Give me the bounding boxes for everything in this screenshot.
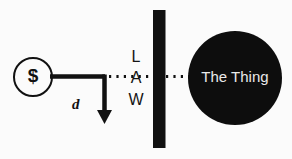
distance-arrow-head [97, 110, 112, 124]
law-letter-a: A [124, 70, 148, 86]
diagram-canvas: $ d L A W The Thing [0, 0, 292, 159]
distance-label: d [72, 97, 80, 112]
money-node-label: $ [0, 66, 66, 85]
law-barrier-bar [153, 10, 166, 148]
thing-node-label: The Thing [188, 69, 282, 84]
law-letter-w: W [124, 92, 148, 108]
law-letter-l: L [124, 49, 148, 65]
